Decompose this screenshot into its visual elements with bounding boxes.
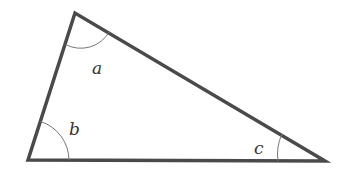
triangle-diagram: a b c [0,0,345,174]
angle-label-a: a [92,58,102,78]
angle-label-b: b [69,119,80,139]
angle-label-c: c [254,138,264,158]
angle-arc-b [41,122,70,161]
angle-arc-c [278,134,282,161]
angle-arc-a [66,32,110,49]
